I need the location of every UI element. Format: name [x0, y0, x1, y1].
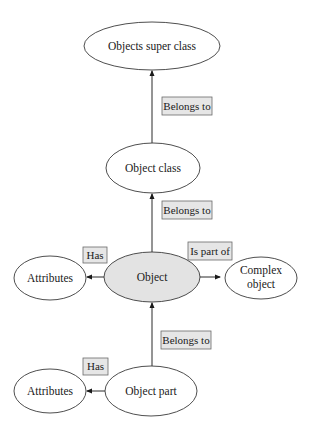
node-object: Object: [104, 252, 200, 302]
node-label: Object: [137, 271, 168, 284]
node-object-class: Object class: [106, 143, 200, 193]
node-complex-object: Complex object: [225, 257, 297, 299]
edge-label-text: Has: [86, 249, 103, 261]
node-label: Object part: [125, 385, 177, 398]
edge-label-text: Belongs to: [163, 204, 211, 216]
edge-label-text: Belongs to: [162, 334, 210, 346]
node-label: Objects super class: [108, 40, 197, 53]
edge-label-has-bottom: Has: [83, 358, 108, 375]
edge-label-belongs-to-bottom: Belongs to: [161, 331, 211, 349]
node-label: Object class: [125, 162, 181, 175]
node-objects-super-class: Objects super class: [84, 22, 220, 70]
edge-label-text: Is part of: [190, 245, 230, 257]
edge-label-text: Belongs to: [163, 100, 211, 112]
node-object-part: Object part: [105, 366, 197, 416]
node-label-line1: Complex: [240, 264, 282, 277]
object-relationship-diagram: Objects super class Object class Object …: [0, 0, 311, 435]
node-label: Attributes: [27, 385, 74, 397]
edge-label-belongs-to-top: Belongs to: [162, 97, 212, 115]
edge-label-belongs-to-middle: Belongs to: [162, 201, 212, 219]
edge-label-has-top: Has: [83, 247, 107, 263]
edge-label-is-part-of: Is part of: [188, 242, 232, 260]
node-attributes-bottom: Attributes: [14, 369, 86, 413]
node-label-line2: object: [247, 278, 276, 291]
node-label: Attributes: [27, 272, 74, 284]
node-attributes-top: Attributes: [14, 256, 86, 300]
edge-label-text: Has: [87, 360, 104, 372]
